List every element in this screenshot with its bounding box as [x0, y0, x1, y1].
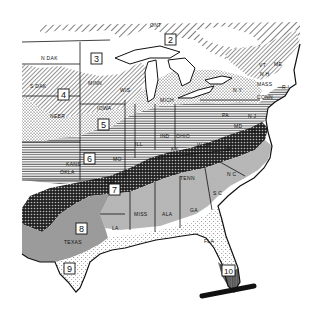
- label-ga: GA: [190, 207, 198, 213]
- label-ind: IND: [160, 133, 170, 139]
- label-ohio: OHIO: [176, 133, 190, 139]
- label-va: VA: [225, 145, 232, 151]
- label-me: ME: [274, 61, 282, 67]
- label-nj: N J: [248, 113, 257, 119]
- svg-text:7: 7: [112, 185, 117, 195]
- label-texas: TEXAS: [64, 239, 82, 245]
- zone-label-6: 6: [84, 153, 95, 164]
- label-nebr: NEBR: [50, 113, 65, 119]
- hardiness-zone-map: 2 3 4 5 6 7 8 9 10 ONT N DAK S DAK MINN …: [0, 0, 319, 321]
- svg-text:2: 2: [168, 35, 173, 45]
- label-vt: VT: [259, 62, 266, 68]
- label-minn: MINN: [88, 80, 102, 86]
- label-kans: KANS: [66, 161, 81, 167]
- label-sc: S C: [213, 190, 222, 196]
- label-del: DEL: [249, 128, 260, 134]
- label-okla: OKLA: [60, 169, 75, 175]
- label-mo: MO: [113, 156, 122, 162]
- svg-text:5: 5: [101, 120, 106, 130]
- label-ont: ONT: [150, 22, 161, 28]
- label-w-va: W VA: [197, 142, 211, 148]
- label-s-dak: S DAK: [30, 83, 47, 89]
- label-nc: N C: [227, 171, 237, 177]
- zone-label-3: 3: [91, 53, 102, 64]
- label-ri: R I: [282, 84, 289, 90]
- keys-bar: [202, 286, 254, 296]
- label-fla: FLA: [204, 238, 214, 244]
- label-ark: ARK: [104, 179, 116, 185]
- label-iowa: IOWA: [97, 105, 112, 111]
- label-ala: ALA: [162, 211, 173, 217]
- svg-text:9: 9: [67, 264, 72, 274]
- svg-text:10: 10: [224, 267, 233, 276]
- label-miss: MISS: [134, 211, 148, 217]
- zone-label-7: 7: [109, 184, 120, 195]
- label-mich: MICH: [160, 97, 174, 103]
- label-mass: MASS: [257, 81, 273, 87]
- svg-text:3: 3: [94, 54, 99, 64]
- svg-text:4: 4: [61, 90, 66, 100]
- label-n-dak: N DAK: [41, 55, 58, 61]
- zone-label-8: 8: [76, 223, 87, 234]
- label-nh: N H: [260, 71, 270, 77]
- zone-label-9: 9: [64, 263, 75, 274]
- label-md: MD: [234, 123, 242, 129]
- label-la: LA: [112, 225, 119, 231]
- zone-label-4: 4: [58, 89, 69, 100]
- label-ky: KY: [171, 146, 179, 152]
- label-ny: N Y: [233, 87, 243, 93]
- label-ill: ILL: [135, 141, 143, 147]
- zone-label-2: 2: [165, 34, 176, 45]
- label-conn: CONN: [257, 94, 273, 100]
- label-wis: WIS: [120, 87, 131, 93]
- svg-text:6: 6: [87, 154, 92, 164]
- label-tenn: TENN: [180, 175, 195, 181]
- zone-label-10: 10: [222, 265, 235, 276]
- svg-text:8: 8: [79, 224, 84, 234]
- zone-label-5: 5: [98, 119, 109, 130]
- label-pa: PA: [222, 112, 229, 118]
